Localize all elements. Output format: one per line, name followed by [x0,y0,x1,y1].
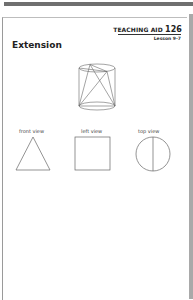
cylinder-figure [72,62,122,112]
top-view-label: top view [138,128,159,134]
front-view-triangle [14,136,52,172]
scan-dark-strip [4,2,193,6]
left-view-label: left view [81,128,102,134]
teaching-aid-number: 126 [165,25,182,34]
page-right-edge [189,14,193,299]
front-view-label: front view [19,128,44,134]
page-title: Extension [12,40,62,50]
teaching-aid-header: TEACHING AID 126 [113,25,182,34]
lesson-label: Lesson 9-7 [154,36,181,41]
teaching-aid-label: TEACHING AID [113,26,163,33]
left-view-square [74,136,112,172]
top-view-circle [134,136,172,172]
header-rule [118,34,181,35]
scan-top-bar [0,0,193,7]
